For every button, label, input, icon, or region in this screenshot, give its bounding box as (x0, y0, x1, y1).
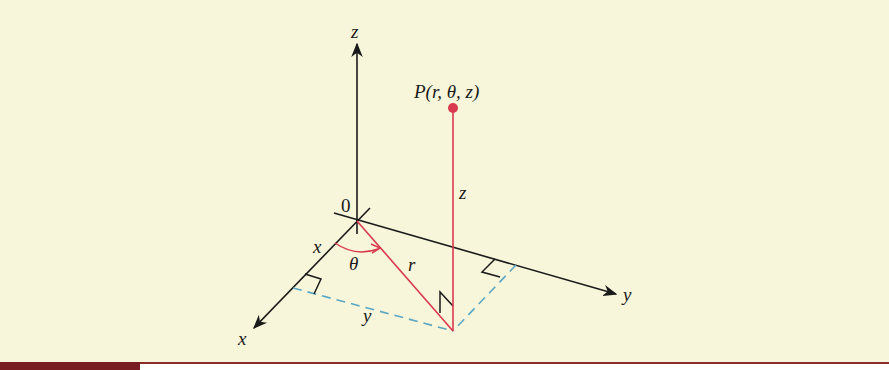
segment-y-label: y (361, 305, 372, 326)
y-axis-label: y (621, 284, 632, 305)
point-label: P(r, θ, z) (413, 81, 479, 103)
x-axis-label: x (237, 328, 247, 349)
segment-z-label: z (458, 182, 467, 203)
figure-panel: z y x 0 P(r, θ, z) z r x y θ (0, 0, 889, 363)
point-p (448, 103, 458, 113)
right-angle-mark-y (482, 259, 500, 277)
right-angle-mark-foot (440, 292, 453, 313)
origin-label: 0 (341, 195, 351, 216)
segment-x-label: x (312, 236, 322, 257)
theta-label: θ (349, 253, 358, 274)
segment-r-label: r (408, 254, 416, 275)
bottom-rule-block (0, 362, 140, 370)
dashed-projection-y (453, 265, 516, 331)
dashed-projection-x (293, 288, 453, 331)
z-axis-label: z (350, 21, 359, 42)
cylindrical-coordinates-diagram: z y x 0 P(r, θ, z) z r x y θ (0, 0, 889, 363)
y-axis (334, 213, 616, 294)
right-angle-mark-x (305, 274, 321, 294)
